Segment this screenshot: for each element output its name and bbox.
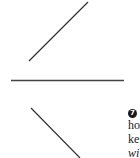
diagram-lines	[0, 0, 140, 158]
step-number-badge: 7	[128, 109, 137, 118]
annotation-line-1: ho	[128, 118, 140, 132]
annotation-text: 7 ho ke wi	[128, 104, 140, 158]
upper-diagonal-line	[29, 2, 88, 61]
annotation-line-3: wi	[128, 146, 140, 158]
annotation-line-2: ke	[128, 132, 140, 146]
lower-diagonal-line	[31, 108, 80, 158]
